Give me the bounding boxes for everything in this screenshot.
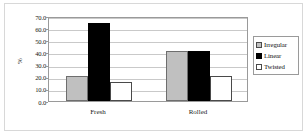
chart-legend: IrregularLinearTwisted	[253, 36, 299, 75]
bar-twisted-rolled	[210, 76, 232, 102]
x-axis-tick-label: Rolled	[148, 107, 248, 117]
bar-irregular-rolled	[166, 51, 188, 101]
y-axis-tick-label: 50.0	[22, 38, 46, 45]
bar-twisted-fresh	[110, 82, 132, 101]
bar-irregular-fresh	[66, 76, 88, 102]
y-axis-tick-label: 20.0	[22, 74, 46, 81]
x-axis-tick-label: Fresh	[48, 107, 148, 117]
y-axis-tick-label: 10.0	[22, 86, 46, 93]
y-axis-tick-mark	[45, 78, 48, 79]
legend-swatch-twisted-icon	[256, 64, 262, 70]
y-axis-tick-mark	[45, 29, 48, 30]
legend-item-linear[interactable]: Linear	[256, 50, 296, 61]
y-axis-tick-mark	[45, 53, 48, 54]
x-axis-tick-labels: FreshRolled	[48, 107, 248, 119]
legend-item-label: Irregular	[264, 41, 287, 49]
y-axis-tick-mark	[45, 66, 48, 67]
legend-swatch-irregular-icon	[256, 42, 262, 48]
y-axis-tick-label: 30.0	[22, 62, 46, 69]
legend-item-twisted[interactable]: Twisted	[256, 61, 296, 72]
y-axis-tick-labels: 70.060.050.040.030.020.010.00.0	[22, 14, 46, 102]
y-axis-tick-mark	[45, 41, 48, 42]
bar-linear-rolled	[188, 51, 210, 101]
y-axis-tick-mark	[45, 102, 48, 103]
y-axis-tick-mark	[45, 17, 48, 18]
legend-item-label: Linear	[264, 52, 281, 60]
y-axis-tick-label: 0.0	[22, 99, 46, 106]
y-axis-tick-label: 60.0	[22, 26, 46, 33]
chart-figure: % 70.060.050.040.030.020.010.00.0 FreshR…	[0, 0, 308, 136]
bar-linear-fresh	[88, 23, 110, 101]
legend-item-irregular[interactable]: Irregular	[256, 39, 296, 50]
y-axis-tick-label: 40.0	[22, 50, 46, 57]
y-axis-tick-mark	[45, 90, 48, 91]
bars-layer	[49, 18, 247, 101]
legend-item-label: Twisted	[264, 63, 285, 71]
y-axis-tick-label: 70.0	[22, 14, 46, 21]
plot-area	[48, 17, 248, 102]
legend-swatch-linear-icon	[256, 53, 262, 59]
